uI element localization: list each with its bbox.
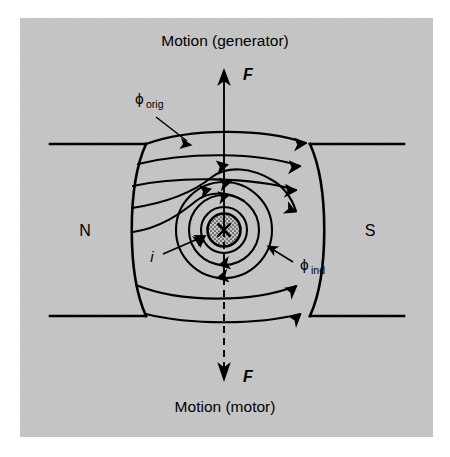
motion-generator-label: Motion (generator) [161, 32, 289, 49]
south-pole-label: S [365, 222, 376, 239]
flux-orig-subscript: orig [146, 98, 164, 110]
force-up-label: F [243, 66, 254, 83]
motion-motor-label: Motion (motor) [175, 398, 276, 415]
magnetic-field-diagram: Motion (generator) Motion (motor) F F N … [0, 0, 450, 457]
flux-ind-symbol: ϕ [300, 256, 309, 273]
figure-root: Motion (generator) Motion (motor) F F N … [0, 0, 450, 457]
force-down-label: F [243, 368, 254, 385]
flux-ind-subscript: ind [311, 264, 325, 276]
flux-orig-symbol: ϕ [135, 90, 144, 107]
north-pole-label: N [79, 222, 91, 239]
